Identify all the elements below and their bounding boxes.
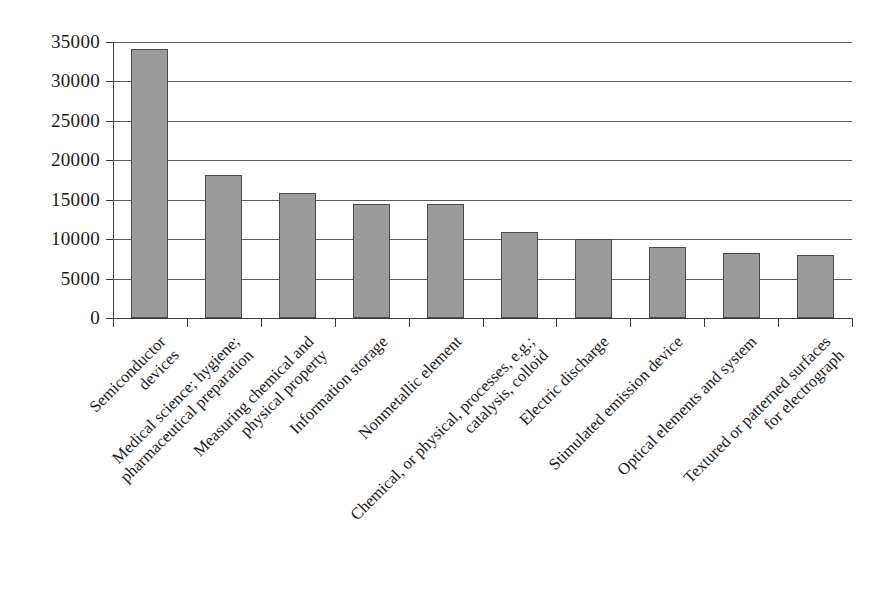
bar [427, 204, 464, 318]
bar [797, 255, 834, 318]
y-axis-tick-label: 25000 [51, 111, 100, 130]
bar [575, 239, 612, 318]
x-axis-tick [852, 318, 853, 327]
plot-area [113, 42, 852, 318]
y-axis-tick-label: 20000 [51, 150, 100, 169]
x-axis-label-line: Stimulated emission device [545, 332, 687, 474]
x-axis-tick [556, 318, 557, 327]
x-axis-tick [704, 318, 705, 327]
bar [205, 175, 242, 318]
x-axis-tick [113, 318, 114, 327]
y-axis-tick-label: 30000 [51, 71, 100, 90]
bar [279, 193, 316, 318]
x-axis-tick [409, 318, 410, 327]
x-axis-label: Textured or patterned surfacesfor electr… [680, 332, 848, 500]
x-axis-tick [261, 318, 262, 327]
y-axis-tick-label: 10000 [51, 229, 100, 248]
x-axis-tick [778, 318, 779, 327]
bar [649, 247, 686, 318]
x-axis-label-line: Textured or patterned surfaces [680, 332, 835, 487]
bar [501, 232, 538, 318]
gridline [113, 121, 852, 122]
x-axis-label: Chemical, or physical, processes, e.g.;c… [347, 332, 552, 537]
bar [353, 204, 390, 318]
bar [131, 49, 168, 318]
x-axis-tick [335, 318, 336, 327]
gridline [113, 81, 852, 82]
gridline [113, 160, 852, 161]
y-axis-tick-label: 5000 [61, 269, 100, 288]
x-axis-label: Stimulated emission device [545, 332, 687, 474]
x-axis-tick [187, 318, 188, 327]
y-axis-tick-label: 0 [90, 308, 100, 327]
bar-chart: 05000100001500020000250003000035000 Semi… [0, 0, 891, 611]
bar [723, 253, 760, 318]
x-axis-tick [630, 318, 631, 327]
x-axis-label-line: catalysis, colloid [360, 345, 552, 537]
x-axis-tick [483, 318, 484, 327]
y-axis-tick-label: 15000 [51, 190, 100, 209]
gridline [113, 42, 852, 43]
y-axis-tick-label: 35000 [51, 32, 100, 51]
